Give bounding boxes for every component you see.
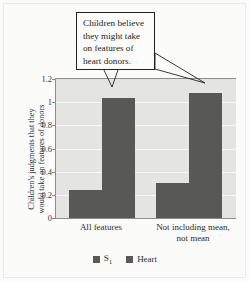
legend-item-heart: Heart — [126, 255, 157, 264]
legend-label-s1: S1 — [104, 254, 112, 265]
annotation-line: on features of — [83, 42, 149, 55]
y-axis-line — [55, 78, 56, 219]
y-tick-mark — [52, 172, 55, 173]
annotation-line: they might take — [83, 30, 149, 43]
y-tick-label: 1.2 — [41, 75, 52, 84]
bar-s1-all-features — [69, 190, 102, 218]
plot-area — [56, 79, 236, 218]
legend-swatch-icon — [93, 256, 100, 263]
y-tick-mark — [52, 102, 55, 103]
x-category-label-all-features: All features — [56, 222, 146, 233]
chart-figure: 1.2 1 0.8 0.6 0.4 0.2 0 Children's judgm… — [0, 0, 250, 282]
bar-s1-not-including-mean — [156, 183, 189, 218]
y-axis-title: Children's judgments that they would tak… — [14, 68, 40, 218]
legend-item-s1: S1 — [93, 254, 112, 265]
legend-label-heart: Heart — [137, 255, 157, 264]
x-axis-line — [55, 218, 236, 219]
legend-swatch-icon — [126, 256, 133, 263]
annotation-callout: Children believe they might take on feat… — [76, 12, 155, 70]
x-category-label-not-including-mean: Not including mean, not mean — [143, 222, 243, 244]
chart-legend: S1 Heart — [0, 254, 250, 265]
y-tick-mark — [52, 125, 55, 126]
x-category-line: Not including mean, — [143, 222, 243, 233]
annotation-line: Children believe — [83, 17, 149, 30]
x-category-line: All features — [56, 222, 146, 233]
annotation-line: heart donors. — [83, 55, 149, 68]
y-tick-mark — [52, 218, 55, 219]
x-category-line: not mean — [143, 233, 243, 244]
y-tick-mark — [52, 79, 55, 80]
axis-top-line — [56, 78, 236, 79]
y-tick-mark — [52, 149, 55, 150]
bar-heart-not-including-mean — [189, 93, 222, 218]
bar-heart-all-features — [102, 98, 135, 218]
y-axis-title-line-1: Children's judgments that they — [27, 108, 37, 209]
y-tick-mark — [52, 195, 55, 196]
y-axis-title-line-2: would take on features of donors — [37, 105, 47, 214]
